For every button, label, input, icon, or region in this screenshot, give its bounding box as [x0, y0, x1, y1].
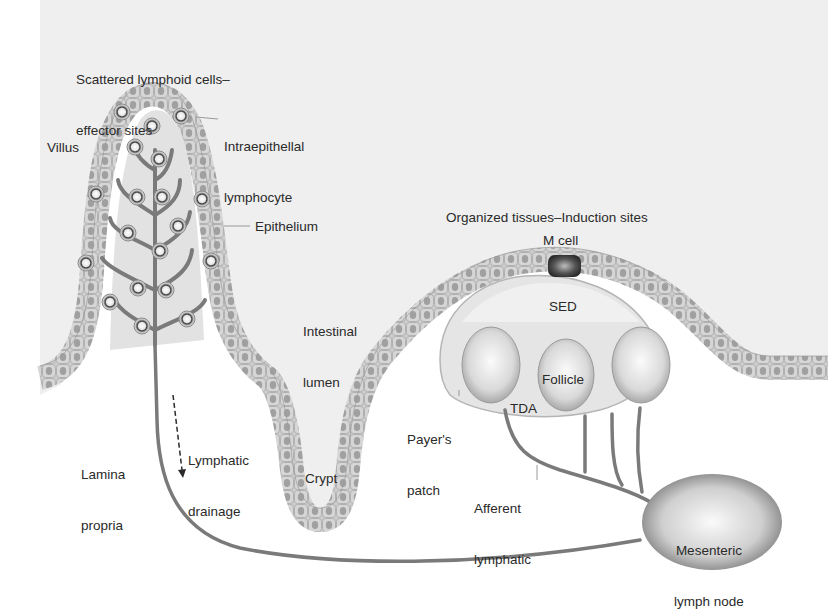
label-payers-patch: Payer's patch — [407, 397, 452, 516]
label-lamina-propria: Lamina propria — [81, 432, 125, 551]
label-follicle: Follicle — [542, 371, 584, 388]
label-tda: TDA — [510, 400, 537, 417]
label-intraepithelial-lymphocyte: Intraepithellal lymphocyte — [224, 104, 304, 223]
label-afferent-lymphatic: Afferent lymphatic — [474, 466, 531, 585]
label-lymphatic-drainage: Lymphatic drainage — [188, 418, 249, 537]
label-sed: SED — [549, 298, 577, 315]
label-scattered-lymphoid-cells: Scattered lymphoid cells– effector sites — [76, 37, 230, 156]
label-villus: Villus — [47, 139, 79, 156]
label-intestinal-lumen: Intestinal lumen — [303, 289, 357, 408]
follicle-left — [462, 327, 520, 403]
drainage-arrow — [173, 395, 186, 478]
label-organized-tissues: Organized tissues–Induction sites — [446, 209, 648, 226]
follicle-right — [612, 327, 670, 403]
label-m-cell: M cell — [543, 232, 578, 249]
label-epithelium: Epithelium — [255, 218, 318, 235]
label-mesenteric-lymph-node: Mesenteric lymph node — [674, 508, 744, 613]
label-crypt: Crypt — [305, 470, 337, 487]
m-cell — [548, 255, 581, 277]
